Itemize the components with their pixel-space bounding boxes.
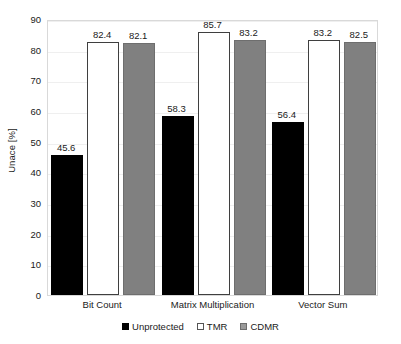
- x-axis-category-label: Bit Count: [83, 300, 122, 310]
- x-axis-category-label: Matrix Multiplication: [171, 300, 254, 310]
- legend-item-unprotected[interactable]: Unprotected: [122, 322, 184, 332]
- legend-item-label: CDMR: [250, 322, 279, 332]
- legend-item-tmr[interactable]: TMR: [197, 322, 228, 332]
- y-axis-tick-label: 50: [30, 138, 41, 148]
- bar-tmr: [308, 40, 340, 295]
- legend-item-cdmr[interactable]: CDMR: [240, 322, 279, 332]
- bar-data-label: 85.7: [203, 20, 222, 30]
- y-axis-tick-label: 70: [30, 77, 41, 87]
- y-axis-tick-label: 10: [30, 261, 41, 271]
- y-axis-tick-label: 0: [36, 291, 41, 301]
- x-axis-category-labels: Bit CountMatrix MultiplicationVector Sum: [47, 300, 378, 316]
- bar-data-label: 82.4: [93, 30, 112, 40]
- bar-tmr: [87, 42, 119, 295]
- y-axis-tick-label: 90: [30, 15, 41, 25]
- bar-cdmr: [123, 43, 155, 295]
- bar-data-label: 83.2: [314, 28, 333, 38]
- bar-data-label: 58.3: [167, 104, 186, 114]
- bar-data-label: 83.2: [239, 28, 258, 38]
- y-axis-tick-label: 30: [30, 199, 41, 209]
- bar-data-label: 56.4: [278, 110, 297, 120]
- x-axis-category-label: Vector Sum: [298, 300, 347, 310]
- y-axis-tick-label: 40: [30, 169, 41, 179]
- legend-item-label: Unprotected: [132, 322, 184, 332]
- chart-legend: UnprotectedTMRCDMR: [0, 322, 401, 332]
- legend-swatch-icon: [197, 323, 204, 330]
- legend-swatch-icon: [122, 323, 129, 330]
- bar-unprotected: [162, 116, 194, 295]
- legend-swatch-icon: [240, 323, 247, 330]
- plot-area: [47, 20, 378, 296]
- y-axis-tick-label: 20: [30, 230, 41, 240]
- bar-data-label: 45.6: [57, 143, 76, 153]
- bar-unprotected: [51, 155, 83, 295]
- y-axis-tick-label: 80: [30, 46, 41, 56]
- bar-data-label: 82.1: [129, 31, 148, 41]
- y-axis-title-text: Unace [%]: [6, 128, 17, 173]
- bar-cdmr: [344, 42, 376, 295]
- bar-chart: Unace [%] 0102030405060708090 45.682.482…: [0, 0, 401, 344]
- legend-item-label: TMR: [207, 322, 228, 332]
- bar-tmr: [198, 32, 230, 295]
- y-axis-tick-labels: 0102030405060708090: [18, 0, 44, 344]
- bar-data-label: 82.5: [350, 30, 369, 40]
- bar-cdmr: [234, 40, 266, 295]
- y-axis-tick-label: 60: [30, 107, 41, 117]
- bar-unprotected: [272, 122, 304, 295]
- bars-layer: [48, 21, 377, 295]
